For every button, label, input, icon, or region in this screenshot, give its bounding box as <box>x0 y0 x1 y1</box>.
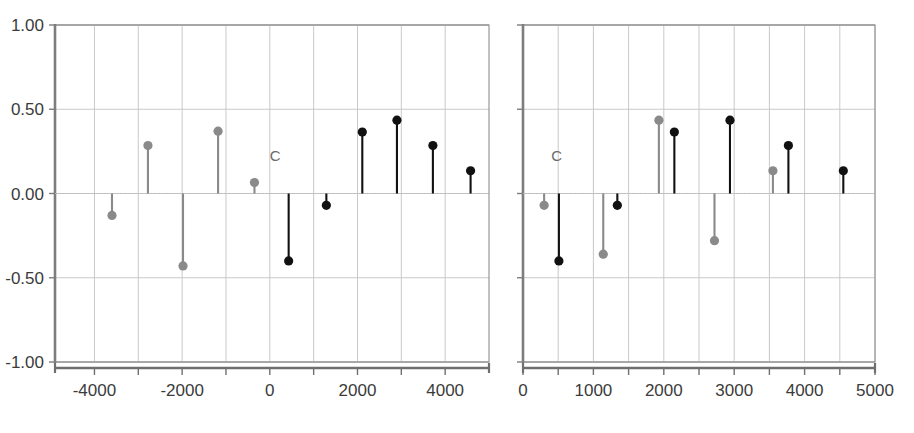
data-point-marker[interactable] <box>178 261 187 270</box>
data-point-marker[interactable] <box>554 256 563 265</box>
x-tick-label: 0 <box>518 381 527 400</box>
annotation-label-c: C <box>270 147 281 164</box>
x-tick-label: -4000 <box>73 381 116 400</box>
plot-area-right: 010002000300040005000C <box>490 0 914 433</box>
series-black <box>554 116 848 266</box>
x-tick-label: 5000 <box>856 381 894 400</box>
plot-area-left: 1.000.500.00-0.50-1.00-4000-200002000400… <box>0 0 500 433</box>
y-tick-label: 0.50 <box>11 100 44 119</box>
y-tick-label: -0.50 <box>5 269 44 288</box>
stem-plot-figure: 1.000.500.00-0.50-1.00-4000-200002000400… <box>0 0 914 433</box>
data-point-marker[interactable] <box>284 256 293 265</box>
series-black <box>284 116 475 266</box>
data-point-marker[interactable] <box>322 201 331 210</box>
x-tick-label: 4000 <box>786 381 824 400</box>
series-gray <box>540 116 778 259</box>
data-point-marker[interactable] <box>250 178 259 187</box>
data-point-marker[interactable] <box>143 141 152 150</box>
data-point-marker[interactable] <box>599 250 608 259</box>
y-tick-label: 1.00 <box>11 16 44 35</box>
data-point-marker[interactable] <box>670 127 679 136</box>
data-point-marker[interactable] <box>358 127 367 136</box>
chart-panel-left: 1.000.500.00-0.50-1.00-4000-200002000400… <box>0 0 500 433</box>
x-tick-label: 2000 <box>645 381 683 400</box>
data-point-marker[interactable] <box>613 201 622 210</box>
x-tick-label: -2000 <box>160 381 203 400</box>
data-point-marker[interactable] <box>725 116 734 125</box>
x-tick-label: 4000 <box>426 381 464 400</box>
x-tick-label: 1000 <box>574 381 612 400</box>
data-point-marker[interactable] <box>466 166 475 175</box>
x-tick-label: 3000 <box>715 381 753 400</box>
data-point-marker[interactable] <box>654 116 663 125</box>
plot-group-right: 010002000300040005000C <box>517 24 894 400</box>
plot-group-left: 1.000.500.00-0.50-1.00-4000-200002000400… <box>5 16 490 400</box>
annotation-label-c: C <box>551 147 562 164</box>
x-tick-label: 0 <box>265 381 274 400</box>
data-point-marker[interactable] <box>710 236 719 245</box>
x-tick-label: 2000 <box>339 381 377 400</box>
data-point-marker[interactable] <box>839 166 848 175</box>
data-point-marker[interactable] <box>107 211 116 220</box>
data-point-marker[interactable] <box>784 141 793 150</box>
y-tick-label: 0.00 <box>11 185 44 204</box>
data-point-marker[interactable] <box>768 166 777 175</box>
chart-panel-right: 010002000300040005000C <box>490 0 914 433</box>
data-point-marker[interactable] <box>392 116 401 125</box>
data-point-marker[interactable] <box>213 127 222 136</box>
y-tick-label: -1.00 <box>5 353 44 372</box>
series-gray <box>107 127 259 271</box>
data-point-marker[interactable] <box>540 201 549 210</box>
data-point-marker[interactable] <box>428 141 437 150</box>
